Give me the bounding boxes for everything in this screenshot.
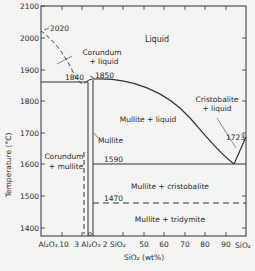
y-axis-label: Temperature (°C) — [4, 133, 13, 199]
svg-text:70: 70 — [180, 240, 190, 249]
svg-text:1500: 1500 — [20, 192, 39, 201]
svg-text:1600: 1600 — [20, 160, 39, 169]
annotation-1470: 1470 — [104, 194, 123, 203]
leader-1850 — [90, 76, 94, 78]
annotation-2020: 2020 — [50, 24, 69, 33]
annotation-1840: 1840 — [65, 73, 84, 82]
label-mullite-liquid: Mullite + liquid — [120, 115, 177, 124]
label-mullite-cristobalite: Mullite + cristobalite — [131, 182, 209, 191]
annotation-1590: 1590 — [104, 155, 123, 164]
svg-text:2000: 2000 — [20, 34, 39, 43]
label-corundum-liquid-2: + liquid — [89, 57, 118, 66]
phase-diagram: Liquid Corundum + liquid Mullite + liqui… — [0, 0, 255, 271]
svg-text:90: 90 — [221, 240, 231, 249]
label-mullite: Mullite — [98, 136, 123, 145]
label-cristobalite-liquid-1: Cristobalite — [196, 95, 239, 104]
label-mullite-tridymite: Mullite + tridymite — [135, 215, 206, 224]
label-corundum-mullite-2: + mullite — [49, 162, 84, 171]
svg-text:2100: 2100 — [20, 2, 39, 11]
svg-text:60: 60 — [159, 240, 169, 249]
svg-text:Al₂O₃: Al₂O₃ — [38, 240, 57, 249]
svg-text:3 Al₂O₃ 2 SiO₂: 3 Al₂O₃ 2 SiO₂ — [74, 240, 126, 249]
annotation-1850: 1850 — [95, 71, 114, 80]
label-liquid: Liquid — [145, 35, 169, 44]
svg-text:1700: 1700 — [20, 129, 39, 138]
svg-text:1800: 1800 — [20, 97, 39, 106]
label-corundum-liquid-1: Corundum — [82, 48, 121, 57]
svg-text:SiO₂: SiO₂ — [235, 241, 251, 250]
x-axis-label: SiO₂ (wt%) — [124, 253, 164, 262]
svg-text:1400: 1400 — [20, 224, 39, 233]
y-tick-labels: 2100 2000 1900 1800 1700 1600 1500 1400 — [20, 2, 39, 233]
label-cristobalite-liquid-2: + liquid — [202, 104, 231, 113]
x-ticks — [62, 232, 226, 236]
svg-text:50: 50 — [139, 240, 149, 249]
svg-text:80: 80 — [200, 240, 210, 249]
mullite-composition-marker — [89, 233, 92, 236]
leader-2020 — [44, 28, 49, 30]
x-tick-labels: Al₂O₃ 10 3 Al₂O₃ 2 SiO₂ 50 60 70 80 90 S… — [38, 240, 250, 250]
annotation-1723: 1723 — [226, 133, 245, 142]
svg-text:1900: 1900 — [20, 66, 39, 75]
top-x-ticks — [62, 6, 226, 10]
label-corundum-mullite-1: Corundum — [44, 152, 83, 161]
svg-text:10: 10 — [59, 240, 69, 249]
